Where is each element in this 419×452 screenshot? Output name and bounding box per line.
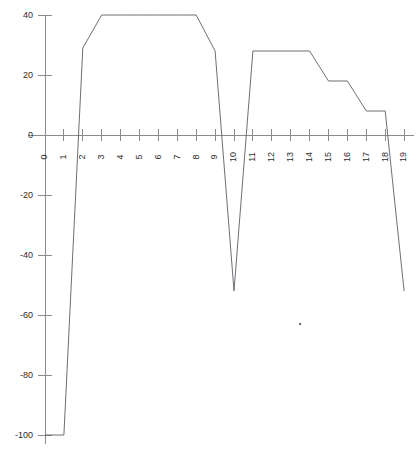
chart-container: 40200-20-40-60-80-100 012345678910111213… [0,0,419,452]
x-tick-label-9: 9 [209,154,219,159]
y-axis-tick-labels: 40200-20-40-60-80-100 [15,10,33,440]
x-tick-label-2: 2 [77,154,87,159]
x-tick-label-3: 3 [96,154,106,159]
y-tick-label--20: -20 [20,190,33,200]
line-chart: 40200-20-40-60-80-100 012345678910111213… [0,0,419,452]
x-tick-label-7: 7 [172,154,182,159]
x-tick-label-19: 19 [398,152,408,162]
x-tick-label-11: 11 [247,152,257,161]
y-tick-label--100: -100 [15,430,33,440]
x-tick-label-10: 10 [228,152,238,162]
x-tick-label-4: 4 [115,154,125,159]
x-tick-label-8: 8 [191,154,201,159]
y-tick-label-20: 20 [23,70,33,80]
x-tick-label-6: 6 [153,154,163,159]
x-tick-label-13: 13 [285,152,295,162]
x-tick-label-1: 1 [58,154,68,159]
speck-mark [299,323,301,325]
data-series-line [45,15,404,435]
y-tick-label--60: -60 [20,310,33,320]
annotation-layer [299,323,301,325]
x-tick-label-17: 17 [361,152,371,162]
y-tick-label-40: 40 [23,10,33,20]
y-tick-label--80: -80 [20,370,33,380]
x-tick-label-12: 12 [266,152,276,162]
x-tick-label-0: 0 [39,154,49,159]
x-tick-label-15: 15 [323,152,333,162]
y-tick-label--40: -40 [20,250,33,260]
x-tick-label-14: 14 [304,152,314,162]
x-tick-label-16: 16 [342,152,352,162]
x-tick-label-18: 18 [380,152,390,162]
y-tick-label-0: 0 [28,130,33,140]
x-tick-label-5: 5 [134,154,144,159]
